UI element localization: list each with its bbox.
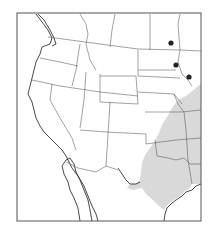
range-map [0,0,216,245]
record-dot [173,62,178,67]
record-dot [186,74,191,79]
record-dot [168,40,173,45]
